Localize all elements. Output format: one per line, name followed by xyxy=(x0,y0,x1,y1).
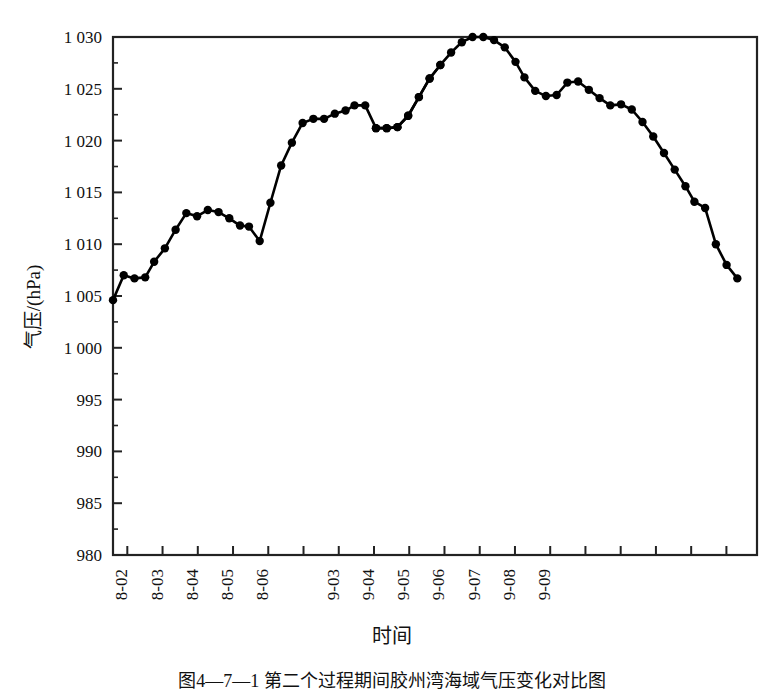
data-point-marker xyxy=(277,161,285,169)
data-point-marker xyxy=(520,73,528,81)
data-point-marker xyxy=(331,109,339,117)
data-point-marker xyxy=(245,222,253,230)
data-point-marker xyxy=(320,115,328,123)
data-point-marker xyxy=(733,274,741,282)
data-point-marker xyxy=(130,274,138,282)
x-tick-label: 08-02 xyxy=(112,569,131,600)
data-point-marker xyxy=(298,119,306,127)
data-point-marker xyxy=(415,93,423,101)
y-tick-label: 980 xyxy=(77,546,103,565)
series-line-1 xyxy=(376,37,737,278)
data-point-marker xyxy=(552,91,560,99)
data-point-marker xyxy=(383,124,391,132)
data-point-marker xyxy=(204,206,212,214)
data-point-marker xyxy=(595,94,603,102)
data-point-marker xyxy=(141,273,149,281)
data-point-marker xyxy=(490,36,498,44)
data-point-marker xyxy=(372,124,380,132)
data-point-marker xyxy=(531,87,539,95)
x-tick-label: 08-03 xyxy=(148,569,167,600)
data-point-marker xyxy=(214,208,222,216)
y-tick-label: 985 xyxy=(77,494,103,513)
data-point-marker xyxy=(350,101,358,109)
x-tick-label: 08-05 xyxy=(218,569,237,600)
data-point-marker xyxy=(585,86,593,94)
data-point-marker xyxy=(425,74,433,82)
data-point-marker xyxy=(681,182,689,190)
data-point-marker xyxy=(690,198,698,206)
x-tick-label: 09-05 xyxy=(394,569,413,600)
x-tick-label: 09-09 xyxy=(535,569,554,600)
data-point-marker xyxy=(288,138,296,146)
data-point-marker xyxy=(393,123,401,131)
data-point-marker xyxy=(468,33,476,41)
chart-plot-area: 1 0301 0251 0201 0151 0101 0051 00099599… xyxy=(0,0,784,600)
y-tick-label: 990 xyxy=(77,442,103,461)
y-tick-label: 1 020 xyxy=(64,132,102,151)
data-point-marker xyxy=(501,43,509,51)
data-point-marker xyxy=(436,61,444,69)
data-point-marker xyxy=(606,101,614,109)
y-tick-label: 995 xyxy=(77,391,103,410)
data-point-marker xyxy=(404,112,412,120)
data-point-marker xyxy=(628,105,636,113)
data-point-marker xyxy=(182,209,190,217)
plot-frame xyxy=(113,37,757,555)
data-point-marker xyxy=(171,226,179,234)
y-tick-label: 1 000 xyxy=(64,339,102,358)
data-point-marker xyxy=(458,38,466,46)
x-tick-label: 09-08 xyxy=(500,569,519,600)
y-tick-label: 1 005 xyxy=(64,287,102,306)
y-axis-title: 气压/(hPa) xyxy=(18,82,45,232)
y-tick-label: 1 010 xyxy=(64,235,102,254)
y-axis-title-text: 气压/(hPa) xyxy=(18,232,45,382)
data-point-marker xyxy=(563,78,571,86)
data-point-marker xyxy=(712,240,720,248)
data-point-marker xyxy=(236,221,244,229)
data-point-marker xyxy=(266,199,274,207)
data-point-marker xyxy=(542,92,550,100)
data-point-marker xyxy=(638,118,646,126)
series-line-0 xyxy=(113,65,440,300)
data-point-marker xyxy=(361,101,369,109)
data-point-marker xyxy=(193,212,201,220)
x-tick-label: 09-06 xyxy=(429,569,448,600)
data-point-marker xyxy=(649,132,657,140)
data-point-marker xyxy=(617,100,625,108)
data-point-marker xyxy=(341,106,349,114)
y-tick-label: 1 025 xyxy=(64,80,102,99)
data-point-marker xyxy=(109,296,117,304)
data-point-marker xyxy=(660,149,668,157)
data-point-marker xyxy=(701,204,709,212)
data-point-marker xyxy=(671,165,679,173)
figure-caption: 图4—7—1 第二个过程期间胶州湾海域气压变化对比图 xyxy=(0,666,784,692)
data-point-marker xyxy=(479,33,487,41)
x-tick-label: 08-06 xyxy=(253,569,272,600)
x-tick-label: 09-07 xyxy=(465,569,484,600)
data-point-marker xyxy=(447,48,455,56)
data-point-marker xyxy=(511,58,519,66)
data-point-marker xyxy=(120,271,128,279)
y-tick-label: 1 030 xyxy=(64,28,102,47)
data-point-marker xyxy=(255,237,263,245)
y-tick-label: 1 015 xyxy=(64,183,102,202)
data-point-marker xyxy=(161,244,169,252)
x-axis-title: 时间 xyxy=(0,620,784,649)
data-point-marker xyxy=(225,214,233,222)
data-point-marker xyxy=(722,261,730,269)
x-tick-label: 09-03 xyxy=(324,569,343,600)
data-point-marker xyxy=(150,258,158,266)
data-point-marker xyxy=(309,115,317,123)
x-tick-label: 08-04 xyxy=(183,569,202,600)
data-point-marker xyxy=(574,77,582,85)
x-tick-label: 09-04 xyxy=(359,569,378,600)
